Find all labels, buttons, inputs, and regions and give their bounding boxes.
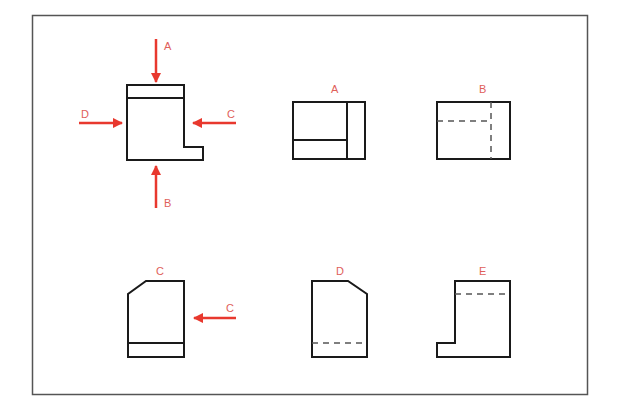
view-d-label: D [336,265,344,277]
arrow-c: C [193,108,236,123]
diagram-frame [33,16,588,395]
view-d: D [312,265,367,357]
object-view: A B C D [79,39,236,209]
view-c-arrow: C [194,302,236,318]
view-c: C C [128,265,236,357]
view-b-label: B [479,83,486,95]
view-a-label: A [331,83,339,95]
view-b: B [437,83,510,159]
projection-diagram: A B C D A B C [0,0,617,416]
arrow-a: A [156,39,172,82]
view-a: A [293,83,365,159]
view-c-arrow-label: C [226,302,234,314]
view-e-label: E [479,265,486,277]
arrow-c-label: C [227,108,235,120]
arrow-a-label: A [164,40,172,52]
arrow-b-label: B [164,197,171,209]
object-outline [127,85,203,160]
arrow-d: D [79,108,122,123]
arrow-d-label: D [81,108,89,120]
arrow-b: B [156,166,171,209]
view-e: E [437,265,510,357]
view-c-label: C [156,265,164,277]
